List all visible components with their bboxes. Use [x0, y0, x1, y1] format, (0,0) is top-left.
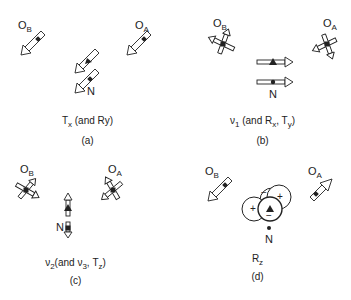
panel-a-mode-title: Tx (and Ry) [0, 116, 175, 129]
nitrogen-label: N [87, 86, 95, 97]
oxygen-a-label: OA [135, 20, 149, 34]
center-of-mass-displacement-arrow [257, 57, 293, 67]
oxygen-a-label: OA [323, 18, 337, 32]
oxygen-a-displacement-arrow [127, 31, 151, 55]
oxygen-a-displacement-arrows [99, 175, 123, 203]
oxygen-a-displacement-arrow [310, 179, 332, 201]
lobe-sign-2: + [277, 192, 283, 202]
nitrogen-label: N [269, 89, 277, 100]
panel-a: OB OA N Tx (and Ry) (a) [0, 0, 175, 150]
panel-b-caption: (b) [175, 136, 350, 146]
lobe-sign-1: − [261, 188, 267, 198]
oxygen-b-displacement-arrow [21, 31, 45, 55]
lobe-sign-3: + [250, 204, 256, 214]
oxygen-b-label: OB [18, 20, 32, 34]
oxygen-b-displacement-arrows [15, 176, 41, 201]
oxygen-b-displacement-arrow [208, 177, 232, 201]
nitrogen-atom-dot [267, 226, 271, 230]
panel-b: OB OA N ν1 (and Rx, Ty) (b) [175, 0, 350, 150]
oxygen-b-label: OB [20, 164, 34, 178]
panel-c: OB OA N ν2(and ν3, Tz) (c) [0, 150, 175, 300]
nitrogen-label: N [265, 234, 273, 245]
panel-c-mode-title: ν2(and ν3, Tz) [0, 258, 163, 271]
panel-d-mode-title: Rz [170, 254, 345, 267]
lobe-sign-4: − [266, 211, 272, 221]
nitrogen-label: N [56, 222, 64, 233]
oxygen-b-label: OB [205, 166, 219, 180]
panel-d-caption: (d) [170, 272, 345, 282]
center-of-mass-displacement-arrow [64, 193, 72, 216]
oxygen-a-label: OA [108, 164, 122, 178]
panel-c-caption: (c) [0, 276, 163, 286]
panel-d: − + + − OB OA N Rz (d) [175, 150, 350, 300]
oxygen-a-label: OA [308, 166, 322, 180]
nitrogen-displacement-arrow [257, 77, 293, 87]
panel-a-caption: (a) [0, 136, 175, 146]
nitrogen-displacement-arrow [64, 222, 72, 238]
oxygen-b-label: OB [213, 18, 227, 32]
panel-b-mode-title: ν1 (and Rx, Ty) [175, 116, 350, 129]
oxygen-a-displacement-arrows [311, 34, 337, 60]
